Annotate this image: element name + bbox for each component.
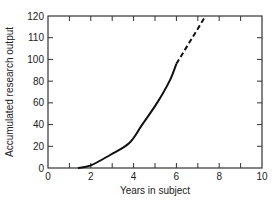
x-axis-label: Years in subject [120,185,190,196]
x-tick-label: 0 [45,171,51,182]
axis-ticks: 0246810020406080100110120 [27,11,268,183]
plot-axes [48,16,262,168]
y-tick-label: 0 [38,163,44,174]
x-tick-label: 8 [216,171,222,182]
y-tick-label: 60 [33,97,45,108]
y-tick-label: 80 [33,76,45,87]
y-tick-label: 100 [27,54,44,65]
plot-frame [48,16,262,168]
x-tick-label: 4 [131,171,137,182]
y-tick-label: 40 [33,119,45,130]
x-tick-label: 6 [174,171,180,182]
series-observed-line [78,64,176,168]
chart-svg: 0246810020406080100110120 Years in subje… [0,0,280,200]
x-tick-label: 10 [256,171,268,182]
data-series [78,18,204,168]
y-axis-label: Accumulated research output [4,27,15,157]
series-extrapolated-line [176,18,204,64]
y-tick-label: 110 [28,32,44,43]
y-tick-label: 20 [33,141,45,152]
chart: 0246810020406080100110120 Years in subje… [0,0,280,200]
x-tick-label: 2 [88,171,94,182]
y-tick-label: 120 [27,11,44,22]
